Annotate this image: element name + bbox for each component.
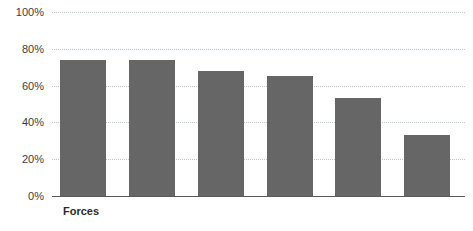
y-axis-tick-labels: 100%80%60%40%20%0% — [0, 0, 48, 231]
bar[interactable] — [60, 60, 106, 196]
y-axis-tick-label: 60% — [0, 80, 44, 92]
y-axis-tick-label: 0% — [0, 190, 44, 202]
y-axis-tick-label: 20% — [0, 153, 44, 165]
y-axis-tick-label: 100% — [0, 6, 44, 18]
bar[interactable] — [129, 60, 175, 196]
y-axis-tick-label: 80% — [0, 43, 44, 55]
bar[interactable] — [198, 71, 244, 196]
y-axis-tick-label: 40% — [0, 116, 44, 128]
bar-chart: 100%80%60%40%20%0% Forces — [0, 0, 473, 231]
bars-layer — [52, 12, 465, 196]
x-axis-line — [52, 196, 465, 197]
category-label: Forces — [63, 205, 99, 217]
bar[interactable] — [335, 98, 381, 196]
bar[interactable] — [267, 76, 313, 196]
bar[interactable] — [404, 135, 450, 196]
